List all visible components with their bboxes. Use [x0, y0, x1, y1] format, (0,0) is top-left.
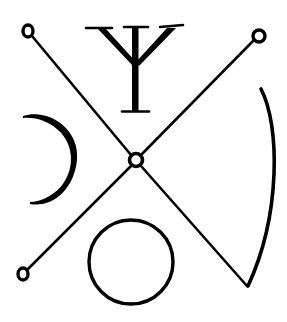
- diagonal-line-b: [141, 40, 254, 155]
- ring-top-right-icon: [253, 30, 265, 42]
- sigil-svg: [0, 0, 287, 322]
- crescent-left-icon: [23, 114, 77, 204]
- circle-bottom-icon: [89, 220, 173, 304]
- diagonal-line-b-lower: [27, 166, 131, 270]
- diagonal-lines: [27, 36, 254, 286]
- ring-center-icon: [130, 154, 143, 167]
- ring-bottom-left-icon: [18, 268, 28, 280]
- ring-top-left-icon: [23, 25, 33, 37]
- sigil-diagram: Occult-style seal: an X of two diagonal …: [0, 0, 287, 322]
- diagonal-line-a: [32, 36, 131, 155]
- diagonal-line-a-lower: [141, 166, 247, 286]
- arc-right-icon: [248, 89, 274, 286]
- psi-glyph-icon: [86, 25, 183, 112]
